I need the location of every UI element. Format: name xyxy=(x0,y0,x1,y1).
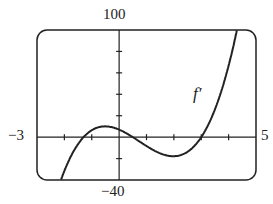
curve-label: f′ xyxy=(193,84,201,104)
chart-plot xyxy=(0,0,273,204)
x-min-label: −3 xyxy=(8,127,24,144)
x-max-label: 5 xyxy=(261,127,269,144)
y-min-label: −40 xyxy=(101,183,124,200)
f-prime-curve xyxy=(61,30,237,179)
y-max-label: 100 xyxy=(103,6,126,23)
